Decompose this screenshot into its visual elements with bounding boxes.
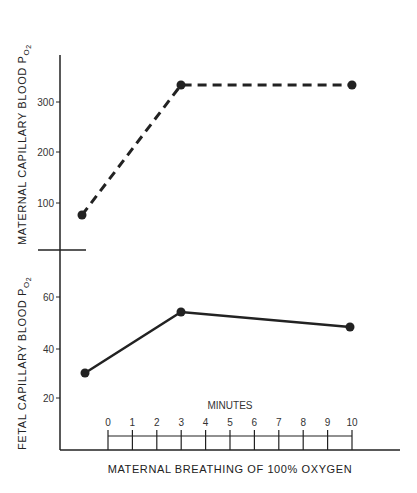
tick-20: 20: [43, 393, 55, 404]
chart-canvas: 300 200 100 60 40 20 MATERNAL CAPILLARY …: [0, 0, 417, 493]
minute-tick-label: 1: [130, 417, 136, 428]
minutes-scale: MINUTES 012345678910: [105, 400, 358, 450]
maternal-point-2: [177, 81, 186, 90]
minute-tick-label: 8: [300, 417, 306, 428]
maternal-point-1: [78, 211, 87, 220]
fetal-ylabel: FETAL CAPILLARY BLOOD PO2: [16, 277, 32, 450]
minutes-label: MINUTES: [208, 400, 253, 411]
fetal-line: [85, 312, 350, 373]
tick-200: 200: [37, 147, 54, 158]
svg-text:MATERNAL CAPILLARY BLOOD PO2: MATERNAL CAPILLARY BLOOD PO2: [16, 44, 32, 245]
fetal-point-3: [346, 323, 355, 332]
minute-tick-label: 7: [276, 417, 282, 428]
minute-tick-label: 9: [325, 417, 331, 428]
maternal-y-ticks: 300 200 100: [37, 97, 60, 209]
fetal-point-2: [177, 308, 186, 317]
svg-text:FETAL CAPILLARY BLOOD PO2: FETAL CAPILLARY BLOOD PO2: [16, 277, 32, 450]
minute-tick-label: 4: [203, 417, 209, 428]
maternal-ylabel: MATERNAL CAPILLARY BLOOD PO2: [16, 44, 32, 245]
maternal-point-3: [348, 81, 357, 90]
tick-300: 300: [37, 97, 54, 108]
maternal-line: [82, 85, 352, 215]
fetal-y-ticks: 60 40 20: [43, 292, 60, 404]
x-axis-label: MATERNAL BREATHING OF 100% OXYGEN: [108, 463, 353, 475]
minute-tick-label: 6: [252, 417, 258, 428]
tick-60: 60: [43, 292, 55, 303]
minute-tick-label: 10: [346, 417, 358, 428]
minute-tick-label: 3: [178, 417, 184, 428]
tick-40: 40: [43, 344, 55, 355]
minute-tick-label: 2: [154, 417, 160, 428]
fetal-point-1: [81, 369, 90, 378]
minute-tick-label: 0: [105, 417, 111, 428]
minute-tick-label: 5: [227, 417, 233, 428]
tick-100: 100: [37, 198, 54, 209]
